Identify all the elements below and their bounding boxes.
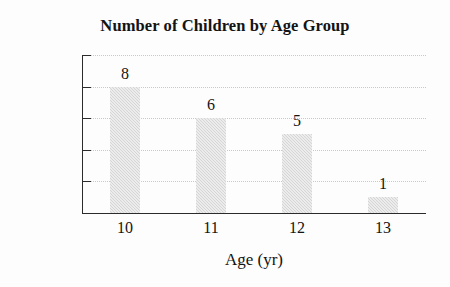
x-axis-line: [82, 213, 426, 214]
x-tick-label: 11: [191, 219, 231, 237]
bar-value-label: 5: [275, 112, 319, 130]
x-tick-label: 12: [277, 219, 317, 237]
y-tick-mark: [82, 118, 91, 119]
x-axis-title: Age (yr): [82, 250, 426, 270]
y-tick-mark: [82, 87, 91, 88]
bar-value-label: 8: [103, 65, 147, 83]
y-tick-mark: [82, 55, 91, 56]
bar-value-label: 1: [361, 175, 405, 193]
bar-value-label: 6: [189, 96, 233, 114]
gridline: [82, 55, 426, 56]
y-tick-mark: [82, 181, 91, 182]
bar: [368, 197, 398, 213]
bar: [282, 134, 312, 213]
y-axis-line: [82, 55, 83, 214]
x-tick-label: 10: [105, 219, 145, 237]
bar: [110, 87, 140, 213]
x-tick-label: 13: [363, 219, 403, 237]
bar-chart-figure: Number of Children by Age Group Frequenc…: [0, 0, 450, 287]
plot-area: 0246810 8651 10111213: [82, 55, 426, 213]
y-tick-mark: [82, 150, 91, 151]
bar: [196, 118, 226, 213]
chart-title: Number of Children by Age Group: [0, 16, 450, 36]
